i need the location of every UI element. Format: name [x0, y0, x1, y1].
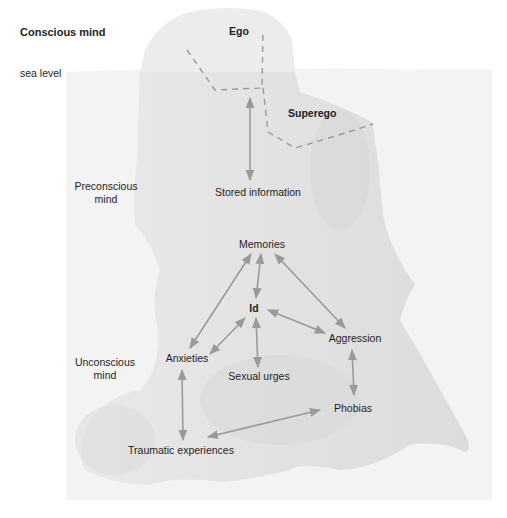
node-memories: Memories: [239, 238, 285, 251]
node-stored-information: Stored information: [215, 186, 301, 199]
iceberg-tip: [140, 8, 295, 72]
node-id: Id: [249, 302, 258, 315]
node-anxieties: Anxieties: [166, 352, 209, 365]
unconscious-mind-label: Unconscious mind: [75, 356, 135, 382]
node-phobias: Phobias: [334, 402, 372, 415]
conscious-mind-label: Conscious mind: [20, 26, 106, 39]
arrow-anxieties-traumatic: [182, 370, 183, 440]
preconscious-mind-label: Preconscious mind: [74, 180, 137, 206]
node-sexual-urges: Sexual urges: [228, 370, 289, 383]
superego-label: Superego: [288, 107, 336, 120]
ego-label: Ego: [229, 25, 249, 38]
iceberg-diagram: Conscious mind sea level Ego Superego Pr…: [0, 0, 507, 518]
sea-level-label: sea level: [20, 67, 61, 80]
node-aggression: Aggression: [329, 332, 382, 345]
node-traumatic-experiences: Traumatic experiences: [128, 444, 234, 457]
